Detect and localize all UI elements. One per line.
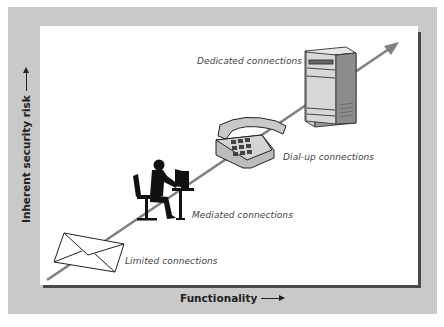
server-tower-icon [305,47,356,127]
x-axis-arrow-icon [261,298,283,299]
y-axis-label-text: Inherent security risk [20,95,32,223]
diagram-graphics [0,0,444,327]
person-at-computer-icon [133,160,194,221]
envelope-icon [54,233,124,272]
caption-limited: Limited connections [125,256,218,266]
caption-dialup: Dial-up connections [283,152,374,162]
y-axis-arrow-icon [26,69,27,91]
x-axis-label: Functionality [180,292,283,304]
caption-mediated: Mediated connections [192,210,293,220]
y-axis-label: Inherent security risk [20,69,32,223]
telephone-icon [216,117,286,168]
x-axis-label-text: Functionality [180,292,257,304]
caption-dedicated: Dedicated connections [197,56,302,66]
